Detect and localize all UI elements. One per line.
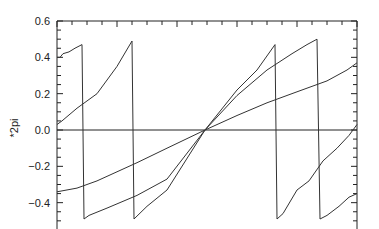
plot-frame [57,21,357,229]
phase-chart: 0.60.40.20.0−0.2−0.4 *2pi [0,0,379,229]
plot-area [57,21,357,229]
y-tick-label: 0.6 [35,15,50,27]
series-layer [57,39,357,219]
y-tick-label: 0.0 [35,124,50,136]
y-tick-label: −0.4 [28,197,50,209]
series-line-phase-steep [57,45,357,219]
y-axis-label: *2pi [8,119,20,138]
y-tick-label: 0.4 [35,51,50,63]
y-tick-label: −0.2 [28,160,50,172]
y-tick-label: 0.2 [35,88,50,100]
